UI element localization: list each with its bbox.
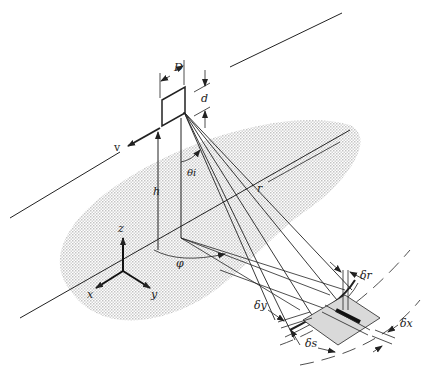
label-slant-range: r — [257, 183, 262, 194]
label-range-resolution: δr — [360, 270, 372, 281]
label-incidence-angle: θi — [187, 168, 196, 178]
label-altitude: h — [153, 186, 160, 197]
label-axis-z: z — [118, 223, 124, 234]
label-axis-y: y — [151, 289, 157, 300]
label-ground-range-resolution: δy — [254, 300, 267, 311]
flight-line — [230, 13, 342, 67]
label-arc-resolution: δs — [305, 338, 317, 349]
label-azimuth-angle: φ — [176, 258, 184, 269]
label-antenna-height: d — [201, 93, 208, 104]
label-antenna-length: D — [174, 62, 183, 73]
label-azimuth-resolution: δx — [400, 318, 413, 329]
radar-geometry-diagram: D d v h θi r φ z x y δr δy δs δx — [0, 0, 424, 372]
antenna — [162, 87, 185, 126]
label-axis-x: x — [87, 289, 93, 300]
diagram-canvas — [0, 0, 424, 372]
velocity-arrow — [128, 128, 160, 146]
label-velocity: v — [114, 142, 120, 153]
